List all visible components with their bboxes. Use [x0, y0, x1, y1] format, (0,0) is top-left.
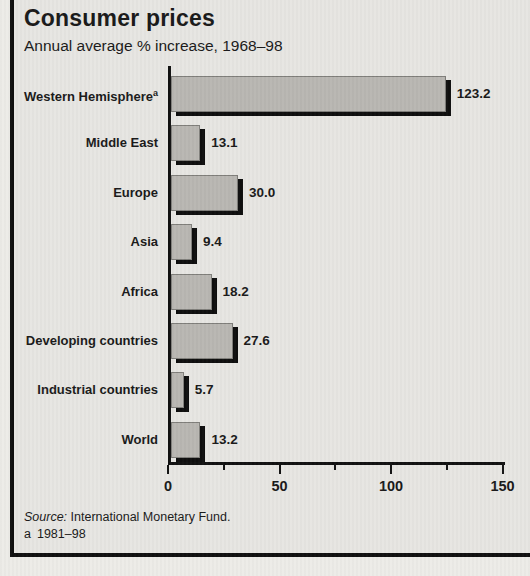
- category-label: Developing countries: [10, 333, 158, 348]
- source-note: Source: International Monetary Fund.: [24, 510, 230, 524]
- category-label: Europe: [10, 185, 158, 200]
- category-label: Africa: [10, 284, 158, 299]
- x-axis-line: [168, 462, 505, 465]
- value-label: 27.6: [244, 333, 270, 348]
- bar: [171, 175, 238, 211]
- value-label: 5.7: [195, 382, 214, 397]
- bar: [171, 224, 192, 260]
- x-axis-tick-label: 150: [490, 478, 514, 494]
- x-axis-minor-tick: [446, 465, 448, 470]
- bar: [171, 323, 233, 359]
- footnote-marker: a: [24, 527, 31, 541]
- value-label: 30.0: [249, 185, 275, 200]
- value-label: 18.2: [223, 284, 249, 299]
- bar: [171, 372, 184, 408]
- value-label: 9.4: [203, 234, 222, 249]
- category-label: Western Hemispherea: [10, 86, 158, 104]
- category-label: Middle East: [10, 135, 158, 150]
- bar-chart: Western Hemispherea123.2Middle East13.1E…: [0, 0, 530, 576]
- x-axis-major-tick: [167, 465, 169, 474]
- source-text: International Monetary Fund.: [67, 510, 230, 524]
- x-axis-major-tick: [279, 465, 281, 474]
- value-label: 123.2: [457, 86, 491, 101]
- bar: [171, 125, 200, 161]
- x-axis-minor-tick: [223, 465, 225, 470]
- x-axis-minor-tick: [334, 465, 336, 470]
- x-axis-tick-label: 0: [164, 478, 172, 494]
- footnote: a1981–98: [24, 527, 86, 541]
- value-label: 13.1: [211, 135, 237, 150]
- bar: [171, 422, 200, 458]
- value-label: 13.2: [211, 432, 237, 447]
- bar: [171, 274, 212, 310]
- source-label: Source:: [24, 510, 67, 524]
- x-axis-major-tick: [390, 465, 392, 474]
- footnote-superscript: a: [153, 88, 158, 98]
- x-axis-major-tick: [502, 465, 504, 474]
- footnote-text: 1981–98: [37, 527, 86, 541]
- x-axis-tick-label: 100: [379, 478, 403, 494]
- x-axis-tick-label: 50: [271, 478, 287, 494]
- category-label: World: [10, 432, 158, 447]
- category-label: Industrial countries: [10, 382, 158, 397]
- bar: [171, 76, 446, 112]
- category-label: Asia: [10, 234, 158, 249]
